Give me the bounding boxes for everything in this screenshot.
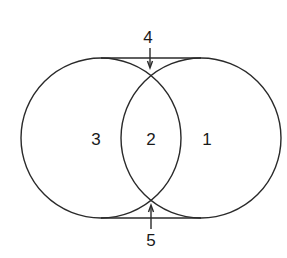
region-label-2: 2 bbox=[146, 130, 155, 149]
left-circle bbox=[21, 58, 181, 218]
region-label-3: 3 bbox=[91, 130, 100, 149]
venn-diagram: 1 2 3 4 5 bbox=[0, 0, 287, 258]
region-label-5: 5 bbox=[146, 231, 155, 250]
right-circle bbox=[121, 58, 281, 218]
region-label-4: 4 bbox=[143, 28, 152, 47]
region-label-1: 1 bbox=[202, 130, 211, 149]
